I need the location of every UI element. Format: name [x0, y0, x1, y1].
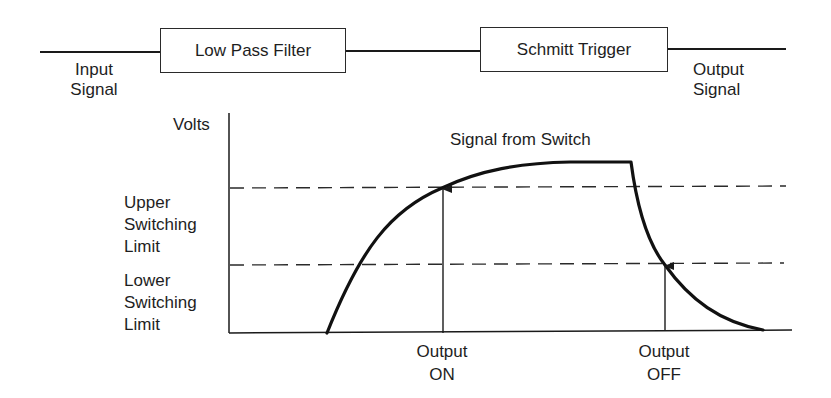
output-on-label: Output ON: [402, 340, 482, 386]
output-off-label: Output OFF: [624, 340, 704, 386]
schmitt-trigger-block: Schmitt Trigger: [480, 27, 668, 72]
upper-switching-limit-label: Upper Switching Limit: [124, 192, 197, 258]
output-signal-label: Output Signal: [693, 60, 744, 100]
input-signal-label: Input Signal: [66, 60, 122, 100]
curve-label: Signal from Switch: [450, 130, 591, 150]
schmitt-trigger-label: Schmitt Trigger: [517, 40, 631, 60]
low-pass-filter-label: Low Pass Filter: [195, 41, 311, 61]
y-axis-label: Volts: [173, 115, 210, 135]
x-axis: [229, 330, 792, 333]
lower-switching-limit-label: Lower Switching Limit: [124, 270, 197, 336]
upper-switching-limit-line: [230, 186, 786, 188]
low-pass-filter-block: Low Pass Filter: [160, 28, 346, 73]
lower-switching-limit-line: [230, 263, 784, 265]
